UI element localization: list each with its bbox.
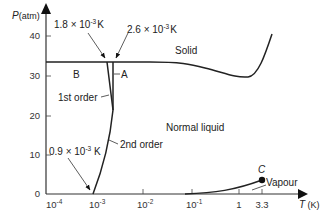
- x-tick-1e-3: 10-3: [89, 198, 106, 210]
- y-ticks: [46, 36, 51, 155]
- y-tick-0: 0: [35, 188, 40, 199]
- x-tick-1: 1: [236, 199, 241, 210]
- region-b-label: B: [73, 69, 80, 80]
- first-order-label: 1st order: [58, 92, 98, 103]
- x-tick-1e-4: 10-4: [46, 198, 63, 210]
- annotation-1-8e-3: 1.8 × 10-3K: [54, 18, 104, 30]
- vapour-curve: [185, 180, 262, 194]
- y-tick-40: 40: [29, 30, 40, 41]
- x-axis-label: T (K): [299, 199, 320, 210]
- critical-point-marker: [259, 177, 265, 183]
- x-tick-3-3: 3.3: [255, 199, 268, 210]
- x-tick-1e-1: 10-1: [186, 198, 203, 210]
- first-order-line: [107, 62, 113, 110]
- annotation-0-9e-3: 0.9 × 10-3 K: [49, 145, 101, 157]
- annotation-2-6e-3: 2.6 × 10-3K: [127, 23, 177, 35]
- critical-point-label: C: [258, 164, 266, 175]
- first-order-leader: [101, 95, 109, 97]
- x-axis-arrow-icon: [298, 189, 308, 199]
- y-tick-30: 30: [29, 70, 40, 81]
- y-axis-arrow-icon: [41, 3, 51, 14]
- region-solid-label: Solid: [175, 45, 197, 56]
- y-tick-10: 10: [29, 149, 40, 160]
- second-order-leader: [109, 140, 118, 144]
- melting-curve: [46, 34, 272, 77]
- x-tick-1e-2: 10-2: [137, 198, 154, 210]
- y-axis-label: P(atm): [12, 10, 40, 21]
- second-order-label: 2nd order: [120, 139, 163, 150]
- annotation-arrow-2-6: [116, 33, 128, 58]
- phase-diagram: 40 30 20 10 0 P(atm) 10-4 10-3 10-2 10-1…: [0, 0, 332, 220]
- region-a-label: A: [121, 69, 128, 80]
- annotation-arrow-0-9: [68, 158, 90, 190]
- region-normal-liquid-label: Normal liquid: [166, 122, 224, 133]
- region-vapour-label: Vapour: [266, 177, 298, 188]
- y-tick-20: 20: [29, 110, 40, 121]
- annotation-arrow-1-8: [88, 33, 105, 58]
- vapour-leader: [252, 185, 266, 190]
